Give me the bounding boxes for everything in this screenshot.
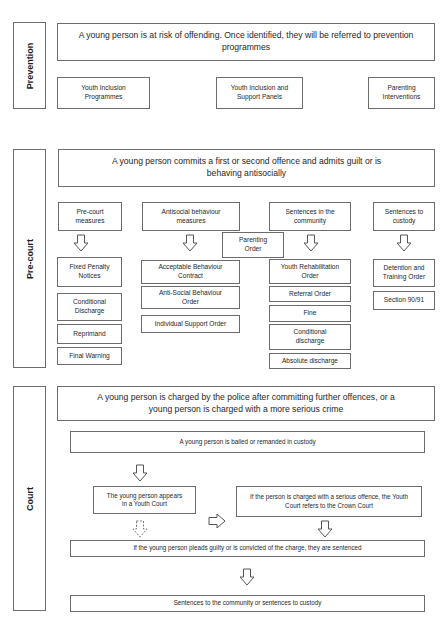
down-arrow-icon [303,234,319,252]
detention-training-order-box: Detention and Training Order [373,259,435,287]
bailed-remanded-box: A young person is bailed or remanded in … [70,431,425,453]
sentenced-box: If the young person pleads guilty or is … [70,540,425,557]
youth-court-box: The young person appears in a Youth Cour… [93,486,196,514]
conditional-discharge-community-box: Conditional discharge [269,324,351,350]
down-arrow-icon [239,568,255,586]
prevention-item-youth-inclusion-support-panels: Youth Inclusion and Support Panels [216,77,303,109]
parenting-order-box: Parenting Order [222,232,284,258]
conditional-discharge-box: Conditional Discharge [57,293,122,321]
individual-support-order-box: Individual Support Order [141,315,240,333]
prevention-item-parenting-interventions: Parenting Interventions [368,77,435,109]
crown-court-box: If the person is charged with a serious … [236,486,422,517]
down-arrow-icon [396,234,412,252]
final-sentences-box: Sentences to the community or sentences … [70,595,425,612]
down-arrow-icon [182,234,198,252]
down-arrow-icon [317,520,333,538]
section-90-91-box: Section 90/91 [373,291,435,310]
absolute-discharge-box: Absolute discharge [269,353,351,369]
section-label-prevention: Prevention [13,22,46,109]
prevention-label-text: Prevention [25,42,35,89]
court-main-box: A young person is charged by the police … [57,386,435,421]
prevention-item-youth-inclusion-programmes: Youth Inclusion Programmes [57,77,150,109]
asbo-box: Anti-Social Behaviour Order [141,286,240,309]
down-arrow-icon [132,464,148,482]
referral-order-box: Referral Order [269,286,351,302]
precourt-label-text: Pre-court [25,238,35,278]
fine-box: Fine [269,305,351,322]
community-sentences-header: Sentences in the community [269,202,351,231]
reprimand-box: Reprimand [57,324,122,344]
final-warning-box: Final Warning [57,347,122,365]
dashed-down-arrow-icon [132,520,148,538]
section-label-court: Court [13,386,46,611]
custody-sentences-header: Sentences to custody [373,202,435,231]
right-arrow-icon [208,513,226,529]
fixed-penalty-notices-box: Fixed Penalty Notices [57,257,122,287]
antisocial-measures-header: Antisocial behaviour measures [142,202,240,231]
youth-rehabilitation-order-box: Youth Rehabilitation Order [269,259,351,284]
down-arrow-icon [73,234,89,252]
section-label-precourt: Pre-court [13,149,46,368]
precourt-measures-header: Pre-court measures [58,202,122,231]
precourt-main-box: A young person commits a first or second… [58,149,435,187]
acceptable-behaviour-contract-box: Acceptable Behaviour Contract [141,260,240,284]
court-label-text: Court [25,487,35,511]
prevention-main-box: A young person is at risk of offending. … [57,23,435,61]
